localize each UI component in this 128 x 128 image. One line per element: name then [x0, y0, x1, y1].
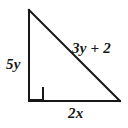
horizontal-leg-label: 2x	[68, 106, 83, 121]
vertical-leg-label: 5y	[6, 57, 21, 72]
hypotenuse-label: 3y + 2	[72, 41, 111, 56]
geometry-figure: 5y 3y + 2 2x	[0, 0, 128, 128]
